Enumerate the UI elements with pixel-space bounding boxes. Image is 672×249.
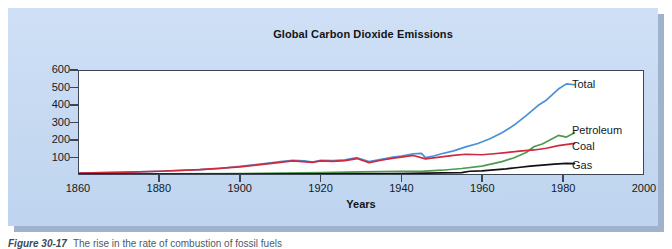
y-axis-tick (70, 139, 78, 141)
figure-caption-number: Figure 30-17 (8, 238, 67, 249)
y-axis-label-slot: 300 (28, 117, 70, 129)
series-label-total: Total (572, 78, 595, 90)
chart-title: Global Carbon Dioxide Emissions (78, 28, 648, 40)
y-axis-tick-label: 400 (36, 99, 70, 110)
x-axis-tick-label: 1900 (216, 182, 264, 194)
x-axis-tick (239, 175, 241, 182)
figure-panel: Global Carbon Dioxide Emissions From Fos… (0, 0, 672, 232)
x-axis-title: Years (78, 198, 644, 210)
x-axis-tick-label: 1880 (135, 182, 183, 194)
x-axis-tick (401, 175, 403, 182)
x-axis-tick-label: 1980 (539, 182, 587, 194)
y-axis-tick-label: 600 (36, 64, 70, 75)
y-axis-label-slot: 500 (28, 82, 70, 94)
series-label-coal: Coal (572, 140, 595, 152)
y-axis-label-slot: 100 (28, 152, 70, 164)
figure-caption-text: The rise in the rate of combustion of fo… (73, 238, 282, 249)
series-label-gas: Gas (572, 159, 592, 171)
x-axis-tick (562, 175, 564, 182)
series-label-petroleum: Petroleum (572, 124, 622, 136)
plot-area (78, 70, 644, 175)
x-axis-tick (158, 175, 160, 182)
x-axis-tick-label: 1860 (54, 182, 102, 194)
y-axis-label-slot: 400 (28, 99, 70, 111)
y-axis-tick-label: 300 (36, 117, 70, 128)
y-axis-tick (70, 104, 78, 106)
y-axis-tick-label: 100 (36, 152, 70, 163)
y-axis-label-slot: 600 (28, 64, 70, 76)
x-axis-tick-label: 1940 (377, 182, 425, 194)
x-axis-tick (320, 175, 322, 182)
y-axis-tick (70, 69, 78, 71)
y-axis-label-slot: 200 (28, 134, 70, 146)
x-axis-tick-label: 1920 (297, 182, 345, 194)
x-axis-tick-label: 2000 (620, 182, 668, 194)
y-axis-tick (70, 87, 78, 89)
x-axis-tick-label: 1960 (458, 182, 506, 194)
y-axis-tick-label: 200 (36, 134, 70, 145)
y-axis-tick (70, 157, 78, 159)
y-axis-tick-label: 500 (36, 82, 70, 93)
y-axis-title: From Fossil Fuel Emissions (millions of … (0, 38, 2, 188)
series-line-total (79, 84, 575, 173)
figure-caption: Figure 30-17The rise in the rate of comb… (8, 238, 668, 249)
y-axis-tick (70, 122, 78, 124)
x-axis-tick (481, 175, 483, 182)
plot-lines (79, 71, 643, 174)
